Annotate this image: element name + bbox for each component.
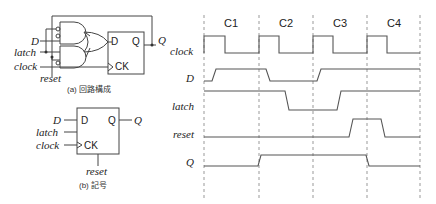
cycle-label-c1: C1 bbox=[224, 17, 238, 29]
signal-label-clock: clock bbox=[170, 45, 194, 57]
caption-a: (a) 回路構成 bbox=[67, 84, 111, 94]
output-label-q: Q bbox=[158, 34, 166, 46]
clock-triangle bbox=[77, 142, 82, 148]
caption-b: (b) 記号 bbox=[79, 180, 107, 190]
inverter-bubble bbox=[56, 27, 60, 31]
symbol-pin-ck: CK bbox=[84, 140, 98, 151]
input-label-clock: clock bbox=[14, 60, 38, 72]
cycle-label-c4: C4 bbox=[387, 17, 401, 29]
signal-label-d: D bbox=[185, 72, 194, 84]
timing-diagram: C1 C2 C3 C4 clock D latch reset Q bbox=[170, 15, 420, 198]
symbol-label-reset: reset bbox=[86, 165, 108, 177]
symbol-label-d: D bbox=[52, 114, 61, 126]
ff-pin-ck: CK bbox=[115, 61, 129, 72]
signal-label-latch: latch bbox=[172, 100, 194, 112]
ff-pin-q: Q bbox=[132, 36, 140, 47]
input-label-latch: latch bbox=[14, 46, 36, 58]
waveform-q bbox=[204, 155, 420, 166]
signal-label-q: Q bbox=[186, 156, 194, 168]
waveform-clock bbox=[204, 36, 420, 53]
cycle-label-c2: C2 bbox=[279, 17, 293, 29]
signal-label-reset: reset bbox=[173, 128, 195, 140]
symbol-label-latch: latch bbox=[36, 126, 58, 138]
symbol-block: D Q CK D latch clock Q reset (b) 記号 bbox=[36, 108, 142, 190]
waveform-reset bbox=[204, 119, 420, 137]
waveform-latch bbox=[204, 91, 420, 110]
symbol-label-clock: clock bbox=[36, 139, 60, 151]
cycle-label-c3: C3 bbox=[333, 17, 347, 29]
inverter-bubble bbox=[56, 61, 60, 65]
clock-triangle bbox=[108, 63, 113, 71]
diagram-canvas: D Q CK D latch clock reset Q (a) 回路構成 D … bbox=[0, 0, 436, 204]
circuit-schematic: D Q CK D latch clock reset Q (a) 回路構成 bbox=[14, 16, 166, 94]
and-gate-2 bbox=[60, 46, 86, 68]
input-label-reset: reset bbox=[40, 72, 62, 84]
ff-pin-d: D bbox=[111, 36, 118, 47]
or-gate bbox=[84, 32, 108, 52]
and-gate-1 bbox=[60, 22, 86, 44]
symbol-label-q: Q bbox=[134, 114, 142, 126]
inverter-bubble bbox=[56, 34, 60, 38]
symbol-pin-d: D bbox=[81, 115, 88, 126]
symbol-pin-q: Q bbox=[108, 115, 116, 126]
waveform-d bbox=[204, 69, 420, 81]
